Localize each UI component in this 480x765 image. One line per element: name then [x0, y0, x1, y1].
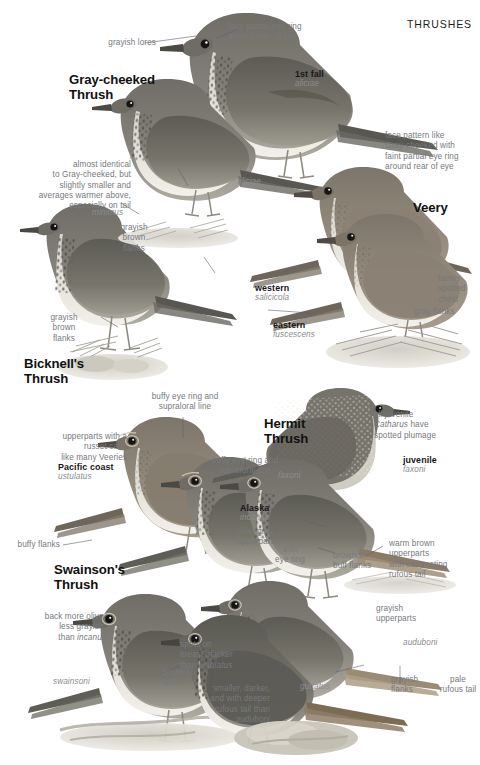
group-sci-veery-western: salicicola [255, 293, 289, 303]
annotation-all-juvenile: all juvenile Catharus have spotted pluma… [374, 410, 470, 441]
annotation-gray-flanks: gray flanks [414, 307, 480, 317]
species-name-bicknells-thrush: Bicknell's Thrush [24, 356, 84, 386]
annotation-buffy-flanks: buffy flanks [12, 540, 60, 550]
ground-hermit [234, 721, 358, 755]
annotation-spots-on-breast: spots on breast blacker than ustulatus [180, 640, 244, 671]
group-sci-bicknells: minimus [92, 208, 123, 218]
page-header: THRUSHES [407, 18, 472, 30]
annotation-pale-rufous-tail: pale rufous tail [437, 675, 479, 696]
annotation-face-pattern-veery: face pattern like Gray-cheeked with fain… [385, 131, 480, 172]
group-sci-pacific-coast: ustulatus [58, 472, 92, 482]
annotation-buffy-eye-ring-2: buffy eye ring and supraloral line [203, 456, 287, 477]
species-name-swainsons-thrush: Swainson's Thrush [54, 562, 125, 592]
annotation-almost-identical: almost identical to Gray-cheeked, but sl… [16, 160, 131, 211]
group-sci-auduboni: auduboni [403, 638, 438, 648]
group-sci-swainsoni: swainsoni [53, 677, 90, 687]
group-sci-alaska: incanus [240, 513, 269, 523]
annotation-thin-eye-ring: thin eye ring [266, 545, 314, 566]
annotation-buffy-eye-ring-1: buffy eye ring and supraloral line [145, 392, 225, 413]
annotation-warm-brown-upperparts: warm brown upperparts with contrasting r… [389, 539, 480, 580]
group-sci-1st-fall: aliciae [295, 79, 319, 89]
ground-veery [326, 324, 470, 368]
annotation-brownish-buff-flanks: brownish buff flanks [333, 551, 387, 572]
group-sci-hermit-juvenile: faxoni [403, 465, 425, 475]
field-guide-plate: THRUSHES Gray-cheeked Thrush grayish lor… [0, 0, 480, 765]
annotation-grayish-brown-flanks-upper: grayish brown flanks [114, 223, 154, 254]
annotation-grayish-flanks: grayish flanks [391, 675, 435, 696]
group-sci-gray-cheeked-adult: aliciae [237, 177, 261, 187]
annotation-smaller-darker: smaller, darker, and with deeper rufous … [185, 684, 270, 725]
species-name-gray-cheeked-thrush: Gray-cheeked Thrush [69, 72, 155, 102]
annotation-grayish-brown-flanks-lower: grayish brown flanks [44, 313, 84, 344]
annotation-grayish-lores: grayish lores [84, 38, 156, 48]
annotation-faintly-spotted-chest: faintly spotted chest [438, 274, 478, 305]
annotation-back-more-olive: back more olive, less grayish, than inca… [24, 612, 106, 643]
annotation-grayish-upperparts: grayish upperparts [376, 604, 436, 625]
annotation-russet-cast: upperparts with a russet cast, like many… [42, 432, 127, 463]
species-name-veery: Veery [413, 200, 448, 215]
group-sci-hermit-faxoni: faxoni [278, 471, 300, 481]
group-sci-guttatus: guttatus [300, 682, 330, 692]
species-name-hermit-thrush: Hermit Thrush [264, 416, 308, 446]
annotation-faint-partial-eye-ring: faint partial eye ring around rear of ey… [228, 22, 348, 43]
group-sci-veery-eastern: fuscescens [273, 330, 315, 340]
